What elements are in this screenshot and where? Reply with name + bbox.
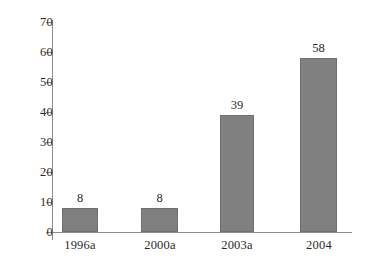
y-axis-tick-label: 70 — [9, 16, 53, 28]
y-axis-tick-label: 60 — [9, 46, 53, 58]
x-axis-category-label: 2000a — [130, 238, 190, 252]
y-axis-tick-label: 40 — [9, 106, 53, 118]
x-axis-line — [52, 232, 352, 233]
bar-value-label: 39 — [220, 99, 254, 112]
bar-2003a[interactable] — [220, 115, 254, 232]
y-axis-tick-label: 30 — [9, 136, 53, 148]
bar-chart: 70 60 50 40 30 20 10 0 — [0, 0, 367, 270]
x-axis-category-label: 2004 — [289, 238, 349, 252]
y-axis-tick-label: 20 — [9, 166, 53, 178]
bar-2004[interactable] — [300, 58, 337, 232]
bar-value-label: 58 — [300, 42, 337, 55]
bar-value-label: 8 — [62, 192, 98, 205]
bar-value-label: 8 — [141, 192, 178, 205]
bar-2000a[interactable] — [141, 208, 178, 232]
y-axis-tick-label: 50 — [9, 76, 53, 88]
plot-area: 70 60 50 40 30 20 10 0 — [0, 0, 367, 270]
bar-1996a[interactable] — [62, 208, 98, 232]
y-axis-tick-label: 0 — [9, 226, 53, 238]
y-axis-tick-label: 10 — [9, 196, 53, 208]
x-axis-category-label: 2003a — [207, 238, 267, 252]
x-axis-category-label: 1996a — [50, 238, 110, 252]
